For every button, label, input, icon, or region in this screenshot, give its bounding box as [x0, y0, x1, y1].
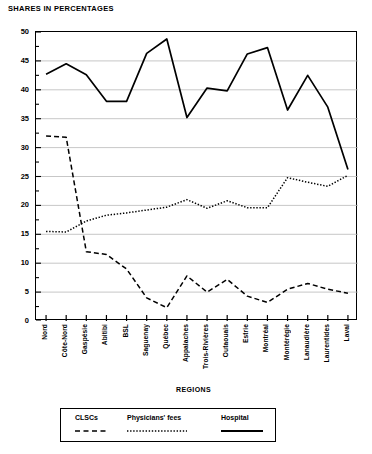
- y-tick-label-10: 50: [21, 27, 29, 36]
- x-tick-label-13: Lanaudière: [303, 324, 310, 360]
- plot-area: [35, 31, 357, 320]
- chart-title: SHARES IN PERCENTAGES: [8, 4, 114, 13]
- legend-label-2: Hospital: [221, 414, 249, 421]
- legend: CLSCsPhysicians' feesHospital: [60, 408, 276, 442]
- x-tick-label-10: Estrie: [242, 324, 249, 343]
- x-tick-label-8: Trois-Rivières: [202, 324, 209, 369]
- legend-swatch-0: [75, 429, 109, 433]
- y-tick-label-2: 10: [21, 258, 29, 267]
- x-tick-label-4: BSL: [122, 324, 129, 338]
- legend-label-0: CLSCs: [75, 414, 98, 421]
- x-tick-label-9: Outaouais: [222, 324, 229, 357]
- x-axis-tick-labels: NordCôte-NordGaspésieAbitibiBSLSaguenayQ…: [35, 324, 357, 386]
- legend-swatch-2: [221, 429, 263, 433]
- legend-swatch-1: [127, 429, 187, 433]
- y-tick-label-0: 0: [25, 316, 29, 325]
- x-tick-label-5: Saguenay: [142, 324, 149, 356]
- y-tick-label-8: 40: [21, 84, 29, 93]
- x-tick-label-3: Abitibi: [101, 324, 108, 345]
- y-tick-label-1: 5: [25, 287, 29, 296]
- x-tick-label-14: Laurentides: [323, 324, 330, 362]
- y-tick-label-9: 45: [21, 55, 29, 64]
- x-tick-label-2: Gaspésie: [81, 324, 88, 354]
- y-tick-label-3: 15: [21, 229, 29, 238]
- legend-label-1: Physicians' fees: [127, 414, 181, 421]
- x-tick-label-7: Appalaches: [182, 324, 189, 362]
- y-axis-tick-labels: 05101520253035404550: [0, 31, 33, 320]
- x-tick-label-6: Québec: [162, 324, 169, 349]
- x-tick-label-12: Montérégie: [283, 324, 290, 360]
- x-tick-label-0: Nord: [41, 324, 48, 340]
- y-tick-label-4: 20: [21, 200, 29, 209]
- x-tick-label-11: Montréal: [262, 324, 269, 352]
- y-tick-label-7: 35: [21, 113, 29, 122]
- x-tick-label-15: Laval: [343, 324, 350, 341]
- y-tick-label-5: 25: [21, 171, 29, 180]
- x-axis-ticks: [36, 32, 358, 321]
- y-tick-label-6: 30: [21, 142, 29, 151]
- x-axis-title: REGIONS: [176, 386, 211, 393]
- x-tick-label-1: Côte-Nord: [61, 324, 68, 357]
